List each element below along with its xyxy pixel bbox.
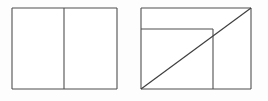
figure-left <box>12 8 117 89</box>
geometry-figures-svg <box>0 0 268 101</box>
figure-right <box>141 8 251 89</box>
figure-canvas <box>0 0 268 101</box>
